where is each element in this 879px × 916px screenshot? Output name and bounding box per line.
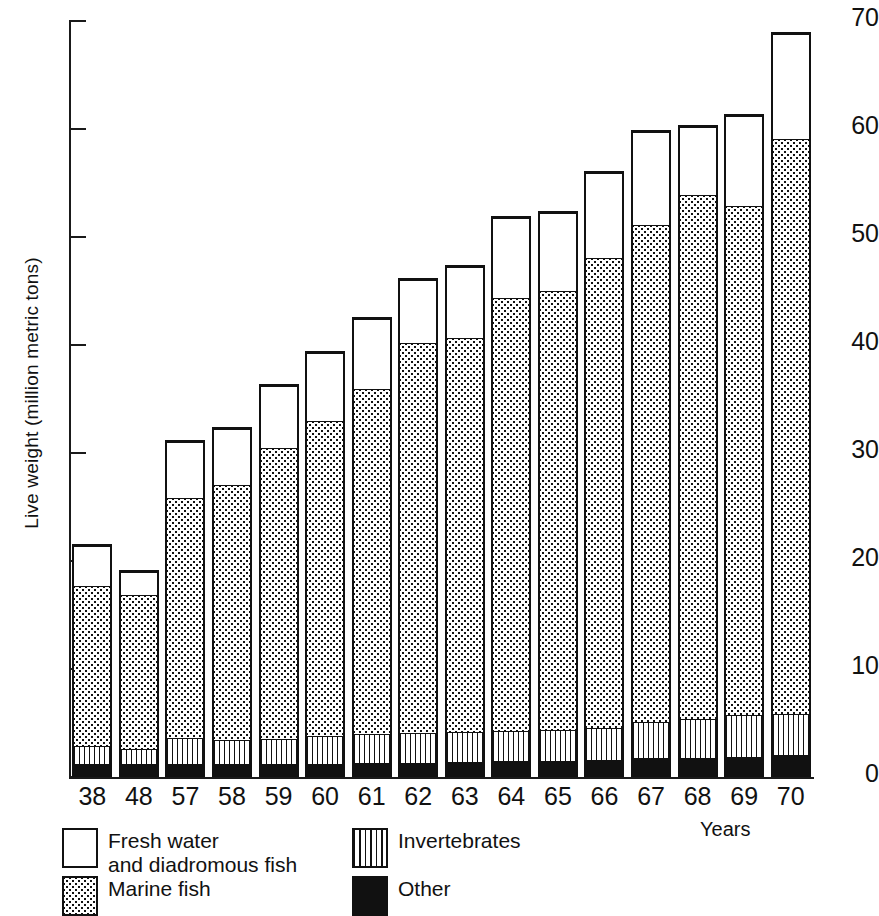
bar-segment-invertebrates: [726, 715, 762, 757]
x-axis-line: [69, 777, 814, 779]
bar-segment-marine-fish: [261, 448, 297, 739]
bar-segment-marine-fish: [354, 389, 390, 735]
bar-segment-invertebrates: [354, 734, 390, 763]
bar-segment-other: [726, 757, 762, 775]
outline-white-swatch-icon: [62, 828, 98, 868]
dotted-swatch-icon: [62, 876, 98, 916]
bar-segment-other: [261, 764, 297, 775]
bar-70: [771, 32, 811, 777]
x-tick-label-70: 70: [768, 784, 814, 809]
bar-segment-fresh-water: [167, 442, 203, 498]
bar-segment-other: [307, 764, 343, 775]
bar-segment-marine-fish: [773, 139, 809, 714]
bar-segment-invertebrates: [400, 733, 436, 763]
x-tick-label-69: 69: [721, 784, 767, 809]
x-tick-label-61: 61: [349, 784, 395, 809]
legend-item-invertebrates: Invertebrates: [352, 828, 521, 868]
bar-segment-other: [400, 763, 436, 775]
bar-segment-invertebrates: [74, 746, 110, 764]
bar-segment-fresh-water: [121, 572, 157, 595]
bar-segment-other: [540, 761, 576, 775]
bar-segment-other: [680, 758, 716, 775]
x-tick-label-58: 58: [209, 784, 255, 809]
bar-segment-other: [447, 762, 483, 775]
bar-segment-marine-fish: [121, 595, 157, 749]
legend-label-fresh-water: Fresh water and diadromous fish: [108, 828, 297, 876]
bar-segment-invertebrates: [447, 732, 483, 762]
bar-segment-invertebrates: [167, 738, 203, 765]
legend-item-fresh-water: Fresh water and diadromous fish: [62, 828, 297, 876]
x-tick-label-67: 67: [628, 784, 674, 809]
bar-66: [584, 171, 624, 777]
bar-68: [678, 125, 718, 777]
bar-38: [72, 544, 112, 777]
bar-segment-marine-fish: [680, 195, 716, 719]
bar-segment-marine-fish: [214, 485, 250, 740]
legend-item-other: Other: [352, 876, 451, 916]
x-tick-label-68: 68: [675, 784, 721, 809]
bar-segment-fresh-water: [447, 267, 483, 338]
bar-58: [212, 427, 252, 777]
y-tick-label: 20: [821, 545, 879, 570]
y-tick-label: 40: [821, 329, 879, 354]
bar-segment-other: [493, 761, 529, 775]
legend-label-marine-fish: Marine fish: [108, 876, 211, 901]
bar-segment-invertebrates: [214, 740, 250, 765]
x-tick-label-38: 38: [69, 784, 115, 809]
y-tick-label: 70: [821, 5, 879, 30]
bar-segment-marine-fish: [447, 338, 483, 732]
legend-label-other: Other: [398, 876, 451, 901]
bar-segment-fresh-water: [680, 127, 716, 196]
y-tick-label: 0: [821, 761, 879, 786]
legend-item-marine-fish: Marine fish: [62, 876, 211, 916]
bar-63: [445, 265, 485, 777]
bar-segment-invertebrates: [586, 728, 622, 760]
x-tick-label-64: 64: [488, 784, 534, 809]
bar-59: [259, 384, 299, 777]
bar-segment-other: [167, 764, 203, 775]
x-tick-label-59: 59: [256, 784, 302, 809]
bar-segment-other: [586, 760, 622, 775]
x-tick-label-63: 63: [442, 784, 488, 809]
bar-segment-marine-fish: [586, 258, 622, 728]
bar-61: [352, 317, 392, 777]
bar-segment-other: [354, 763, 390, 775]
bar-segment-marine-fish: [633, 225, 669, 722]
x-tick-label-66: 66: [581, 784, 627, 809]
bar-segment-other: [74, 764, 110, 775]
x-tick-label-65: 65: [535, 784, 581, 809]
y-tick-label: 30: [821, 437, 879, 462]
bar-62: [398, 278, 438, 777]
bar-segment-marine-fish: [400, 343, 436, 733]
bar-segment-fresh-water: [261, 386, 297, 448]
bar-57: [165, 440, 205, 777]
bar-60: [305, 351, 345, 777]
bar-segment-other: [214, 764, 250, 775]
bar-segment-other: [773, 755, 809, 775]
bar-segment-invertebrates: [307, 736, 343, 764]
y-tick-label: 10: [821, 653, 879, 678]
y-axis-title: Live weight (million metric tons): [21, 193, 43, 593]
bar-segment-fresh-water: [633, 132, 669, 225]
bar-segment-other: [633, 758, 669, 775]
bar-segment-marine-fish: [167, 498, 203, 738]
bar-segment-fresh-water: [773, 34, 809, 139]
bar-segment-invertebrates: [261, 739, 297, 765]
bar-segment-fresh-water: [307, 353, 343, 420]
chart-legend: Fresh water and diadromous fish Marine f…: [62, 828, 822, 912]
bar-69: [724, 114, 764, 777]
bar-65: [538, 211, 578, 777]
bar-segment-marine-fish: [493, 298, 529, 731]
bar-64: [491, 216, 531, 777]
bar-segment-fresh-water: [540, 213, 576, 291]
striped-swatch-icon: [352, 828, 388, 868]
x-tick-label-60: 60: [302, 784, 348, 809]
bar-segment-invertebrates: [680, 719, 716, 758]
bar-segment-marine-fish: [726, 206, 762, 715]
bar-segment-invertebrates: [773, 714, 809, 755]
bar-segment-marine-fish: [540, 291, 576, 730]
bar-segment-fresh-water: [726, 116, 762, 206]
bar-segment-fresh-water: [74, 546, 110, 586]
bar-segment-other: [121, 764, 157, 775]
